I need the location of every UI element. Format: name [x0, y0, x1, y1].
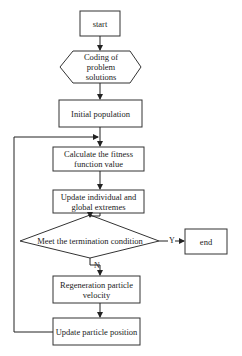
coding-node-label: Coding of problem solutions	[76, 51, 126, 83]
decision-node-label: Meet the termination condition	[28, 234, 152, 248]
init-node-label: Initial population	[59, 100, 142, 127]
position-node-label: Update particle position	[53, 318, 140, 345]
yes-edge-label: Y	[169, 237, 175, 245]
no-edge-label: N	[94, 262, 100, 270]
start-node-label: start	[80, 11, 120, 36]
update-extremes-node-label: Update individual and global extremes	[56, 190, 141, 213]
edge-update-decision	[90, 213, 100, 217]
velocity-node-label: Regeneration particle velocity	[56, 276, 137, 303]
end-node-label: end	[185, 229, 227, 254]
fitness-node-label: Calculate the fitness function value	[56, 147, 141, 171]
